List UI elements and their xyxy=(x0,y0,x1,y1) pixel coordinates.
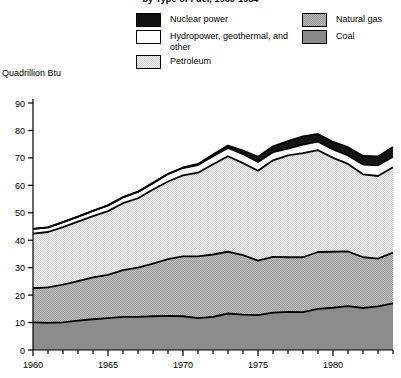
x-tick-label: 1965 xyxy=(98,360,118,370)
plot-area: 010203040506070809019601965197019751980 xyxy=(0,0,401,378)
x-tick-label: 1960 xyxy=(23,360,43,370)
y-tick-label: 0 xyxy=(20,346,25,356)
y-tick-label: 60 xyxy=(15,181,25,191)
y-tick-label: 10 xyxy=(15,318,25,328)
y-tick-label: 70 xyxy=(15,153,25,163)
y-tick-label: 20 xyxy=(15,291,25,301)
y-tick-label: 90 xyxy=(15,99,25,109)
x-tick-label: 1970 xyxy=(173,360,193,370)
x-tick-label: 1975 xyxy=(248,360,268,370)
energy-consumption-chart: by Type of Fuel, 1960-1984 Nuclear power… xyxy=(0,0,401,378)
x-tick-label: 1980 xyxy=(323,360,343,370)
y-tick-label: 30 xyxy=(15,263,25,273)
y-tick-label: 50 xyxy=(15,208,25,218)
y-tick-label: 40 xyxy=(15,236,25,246)
y-tick-label: 80 xyxy=(15,126,25,136)
